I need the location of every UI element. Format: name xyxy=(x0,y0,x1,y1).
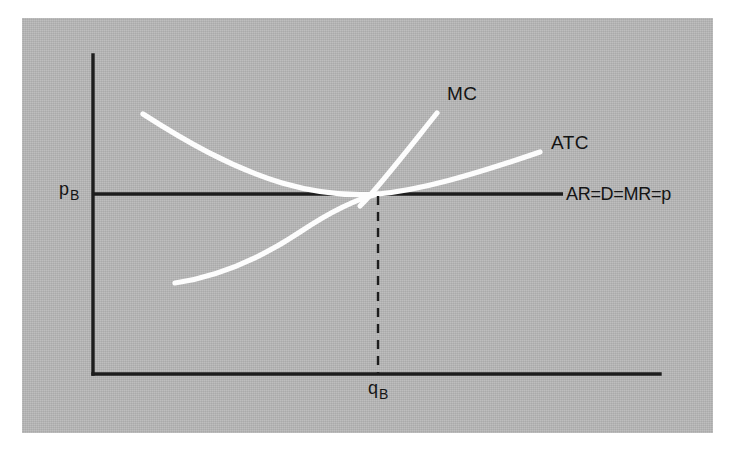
quantity-axis-label: qB xyxy=(368,379,387,397)
mc-curve-lower xyxy=(175,194,378,283)
price-axis-label: pB xyxy=(59,180,78,198)
atc-curve xyxy=(143,114,540,195)
quantity-symbol: q xyxy=(368,378,378,398)
price-symbol: p xyxy=(59,179,69,199)
price-subscript: B xyxy=(70,187,79,203)
mc-curve-label: MC xyxy=(447,84,477,103)
economics-diagram: MC ATC AR=D=MR=p pB qB xyxy=(0,0,739,454)
atc-curve-label: ATC xyxy=(551,133,589,152)
demand-curve-label: AR=D=MR=p xyxy=(566,185,671,203)
quantity-subscript: B xyxy=(379,386,388,402)
